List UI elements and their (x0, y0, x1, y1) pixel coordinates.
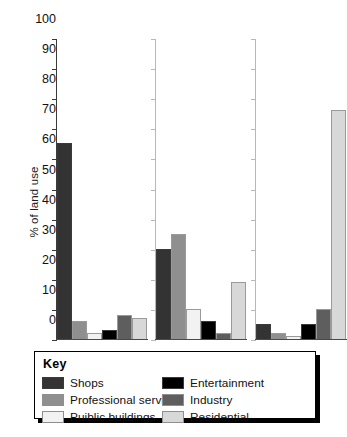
legend-swatch-icon (162, 411, 184, 423)
y-tick-2-60 (151, 159, 156, 160)
y-tick-1-20 (52, 280, 57, 281)
y-tick-label-40: 40 (0, 194, 56, 207)
bar-residential-group-2 (231, 282, 246, 339)
y-tick-3-30 (251, 250, 256, 251)
y-tick-3-60 (251, 159, 256, 160)
y-tick-label-10: 10 (0, 284, 56, 297)
y-tick-label-30: 30 (0, 224, 56, 237)
legend-item-entertainment: Entertainment (162, 376, 315, 390)
y-tick-label-60: 60 (0, 133, 56, 146)
legend-item-puiblic-buildings: Puiblic buildings (42, 410, 162, 424)
y-tick-2-80 (151, 99, 156, 100)
bar-entertainment-group-2 (201, 321, 216, 339)
bar-professional-services-group-3 (271, 333, 286, 339)
y-tick-label-50: 50 (0, 164, 56, 177)
bar-group-1 (56, 20, 148, 340)
y-tick-label-20: 20 (0, 254, 56, 267)
y-tick-3-100 (251, 39, 256, 40)
bar-entertainment-group-1 (102, 330, 117, 339)
legend-title: Key (43, 357, 315, 371)
y-tick-label-100: 100 (0, 13, 56, 26)
bars-group-2 (156, 234, 246, 339)
bar-puiblic-buildings-group-2 (186, 309, 201, 339)
bar-group-3 (255, 20, 347, 340)
y-tick-label-80: 80 (0, 73, 56, 86)
y-tick-2-30 (151, 250, 156, 251)
bar-professional-services-group-2 (171, 234, 186, 339)
legend-item-shops: Shops (42, 376, 162, 390)
bar-industry-group-2 (216, 333, 231, 339)
y-tick-3-90 (251, 69, 256, 70)
legend-swatch-icon (162, 394, 184, 406)
y-tick-2-70 (151, 129, 156, 130)
y-tick-1-90 (52, 69, 57, 70)
y-tick-2-0 (151, 340, 156, 341)
y-tick-3-80 (251, 99, 256, 100)
legend-swatch-icon (42, 394, 64, 406)
y-tick-3-50 (251, 190, 256, 191)
y-tick-2-50 (151, 190, 156, 191)
y-tick-2-10 (151, 310, 156, 311)
y-tick-2-40 (151, 220, 156, 221)
y-tick-3-40 (251, 220, 256, 221)
bar-entertainment-group-3 (301, 324, 316, 339)
legend-label: Entertainment (190, 376, 264, 390)
bar-puiblic-buildings-group-1 (87, 333, 102, 339)
legend-item-residential: Residential (162, 410, 315, 424)
x-axis-baseline-2 (155, 339, 247, 340)
bar-residential-group-3 (331, 110, 346, 339)
legend-item-industry: Industry (162, 393, 315, 407)
y-tick-1-80 (52, 99, 57, 100)
y-tick-3-70 (251, 129, 256, 130)
bars-group-1 (57, 143, 147, 339)
bar-industry-group-1 (117, 315, 132, 339)
y-tick-1-30 (52, 250, 57, 251)
legend-label: Shops (70, 376, 104, 390)
legend-label: Industry (190, 393, 232, 407)
bar-group-2 (155, 20, 247, 340)
y-tick-3-10 (251, 310, 256, 311)
y-tick-1-60 (52, 159, 57, 160)
y-tick-2-100 (151, 39, 156, 40)
legend-box: Key ShopsEntertainmentProfessional servi… (34, 351, 316, 419)
y-tick-3-20 (251, 280, 256, 281)
y-tick-1-50 (52, 190, 57, 191)
bar-chart: % of land use 1009080706050403020100 (0, 0, 344, 340)
legend-swatch-icon (42, 377, 64, 389)
y-tick-1-40 (52, 220, 57, 221)
bar-shops-group-1 (57, 143, 72, 339)
legend-swatch-icon (42, 411, 64, 423)
y-tick-label-70: 70 (0, 103, 56, 116)
y-tick-2-90 (151, 69, 156, 70)
y-tick-label-0: 0 (0, 314, 56, 327)
y-tick-2-20 (151, 280, 156, 281)
legend-items: ShopsEntertainmentProfessional servicesI… (42, 374, 315, 425)
bar-shops-group-3 (256, 324, 271, 339)
bar-residential-group-1 (132, 318, 147, 339)
y-tick-3-0 (251, 340, 256, 341)
bar-professional-services-group-1 (72, 321, 87, 339)
bars-group-3 (256, 110, 346, 339)
x-axis-baseline-3 (255, 339, 347, 340)
y-tick-1-0 (52, 340, 57, 341)
x-axis-baseline-1 (56, 339, 148, 340)
y-tick-label-90: 90 (0, 43, 56, 56)
bar-industry-group-3 (316, 309, 331, 339)
legend-item-professional-services: Professional services (42, 393, 162, 407)
legend-label: Puiblic buildings (70, 410, 155, 424)
y-tick-1-10 (52, 310, 57, 311)
bar-puiblic-buildings-group-3 (286, 336, 301, 339)
bar-shops-group-2 (156, 249, 171, 339)
legend-swatch-icon (162, 377, 184, 389)
y-tick-1-100 (52, 39, 57, 40)
y-tick-1-70 (52, 129, 57, 130)
legend-label: Residential (190, 410, 249, 424)
